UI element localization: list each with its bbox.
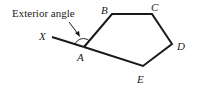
pointer-arrow-head — [75, 31, 80, 37]
exterior-angle-label: Exterior angle — [12, 7, 75, 19]
pentagon-sides — [84, 14, 172, 66]
vertex-label-x: X — [38, 30, 47, 42]
vertex-label-d: D — [176, 40, 185, 52]
vertex-label-c: C — [151, 1, 159, 13]
vertex-label-b: B — [101, 4, 108, 16]
pentagon-exterior-angle-diagram: Exterior angle X A B C D E — [0, 0, 197, 89]
vertex-label-e: E — [136, 73, 144, 85]
vertex-label-a: A — [76, 51, 84, 63]
extension-line-xa — [52, 37, 84, 47]
